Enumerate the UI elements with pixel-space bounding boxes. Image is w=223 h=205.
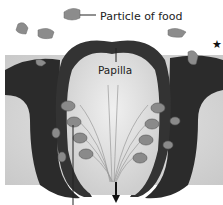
particle-of-food-label: Particle of food bbox=[100, 11, 183, 22]
flow-arrow-head bbox=[112, 195, 120, 203]
papilla-diagram: Particle of food Papilla ★ bbox=[0, 0, 223, 205]
papilla-illustration bbox=[0, 0, 223, 205]
star-marker-icon: ★ bbox=[212, 39, 222, 50]
papilla-label: Papilla bbox=[98, 65, 132, 76]
